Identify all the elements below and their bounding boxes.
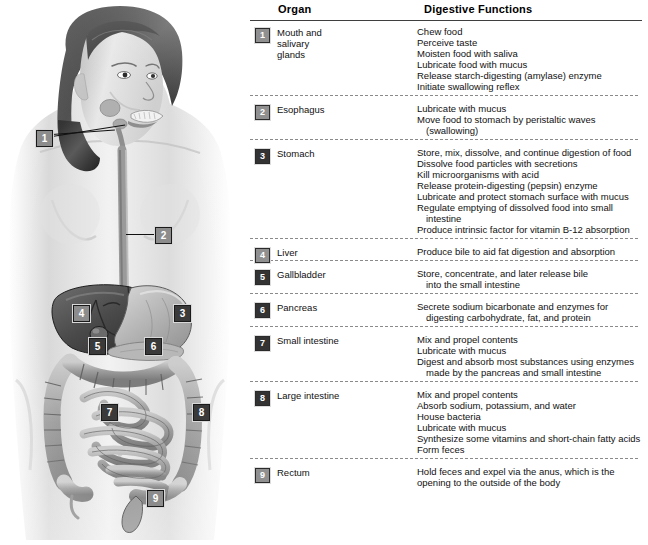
function-line: Secrete sodium bicarbonate and enzymes f… [417,301,642,312]
function-line: Mix and propel contents [417,389,642,400]
row-separator [250,238,638,239]
function-line: House bacteria [417,411,642,422]
row-separator [250,95,638,96]
function-line: opening to the outside of the body [417,477,642,488]
function-line: Form feces [417,444,642,455]
row-badge-1: 1 [255,28,270,43]
organ-name: Pancreas [277,302,407,313]
anatomy-illustration [0,0,240,545]
row-badge-5: 5 [255,270,270,285]
table-body: 1Mouth andsalivaryglandsChew foodPerceiv… [240,22,648,491]
digestive-functions-table: Organ Digestive Functions 1Mouth andsali… [240,0,648,545]
function-line: Produce bile to aid fat digestion and ab… [417,246,642,257]
function-line: Regulate emptying of dissolved food into… [417,202,642,213]
organ-functions: Mix and propel contentsAbsorb sodium, po… [417,389,642,455]
row-separator [250,293,638,294]
organ-name: Stomach [277,148,407,159]
function-line: Dissolve food particles with secretions [417,158,642,169]
organ-functions: Secrete sodium bicarbonate and enzymes f… [417,301,642,323]
figure-callout-7: 7 [101,404,118,421]
row-badge-7: 7 [255,336,270,351]
row-badge-3: 3 [255,149,270,164]
function-line: Release starch-digesting (amylase) enzym… [417,70,642,81]
function-line: Moisten food with saliva [417,48,642,59]
organ-functions: Mix and propel contentsLubricate with mu… [417,334,642,378]
row-badge-9: 9 [255,468,270,483]
table-row: 2EsophagusLubricate with mucusMove food … [240,99,648,143]
row-badge-8: 8 [255,391,270,406]
organ-name: Gallbladder [277,269,407,280]
function-line: Digest and absorb most substances using … [417,356,642,367]
organ-functions: Produce bile to aid fat digestion and ab… [417,246,642,257]
row-separator [250,458,638,459]
organ-name: Mouth andsalivaryglands [277,27,407,60]
function-line: Lubricate with mucus [417,345,642,356]
column-header-functions: Digestive Functions [424,3,532,15]
figure-callout-6: 6 [145,338,162,355]
table-row: 9RectumHold feces and expel via the anus… [240,462,648,491]
function-line: Mix and propel contents [417,334,642,345]
organ-functions: Store, mix, dissolve, and continue diges… [417,147,642,235]
function-line: digesting carbohydrate, fat, and protein [417,312,642,323]
function-line: Lubricate with mucus [417,422,642,433]
figure-callout-4: 4 [73,305,90,322]
function-line: Lubricate food with mucus [417,59,642,70]
table-row: 8Large intestineMix and propel contentsA… [240,385,648,462]
table-row: 7Small intestineMix and propel contentsL… [240,330,648,385]
organ-name: Liver [277,247,407,258]
organ-name: Rectum [277,467,407,478]
organ-functions: Hold feces and expel via the anus, which… [417,466,642,488]
table-row: 3StomachStore, mix, dissolve, and contin… [240,143,648,242]
leader-line-2 [126,234,154,235]
function-line: Hold feces and expel via the anus, which… [417,466,642,477]
table-row: 6PancreasSecrete sodium bicarbonate and … [240,297,648,330]
row-separator [250,326,638,327]
function-line: Perceive taste [417,37,642,48]
function-line: Absorb sodium, potassium, and water [417,400,642,411]
figure-callout-5: 5 [89,338,106,355]
function-line: (swallowing) [417,125,642,136]
function-line: Lubricate and protect stomach surface wi… [417,191,642,202]
function-line: made by the pancreas and small intestine [417,367,642,378]
figure-callout-3: 3 [174,305,191,322]
anatomy-svg [0,0,240,545]
row-badge-4: 4 [255,248,270,263]
table-row: 4LiverProduce bile to aid fat digestion … [240,242,648,264]
function-line: Kill microorganisms with acid [417,169,642,180]
function-line: Chew food [417,26,642,37]
function-line: Move food to stomach by peristaltic wave… [417,114,642,125]
function-line: Lubricate with mucus [417,103,642,114]
function-line: Release protein-digesting (pepsin) enzym… [417,180,642,191]
table-row: 1Mouth andsalivaryglandsChew foodPerceiv… [240,22,648,99]
organ-name: Esophagus [277,104,407,115]
row-separator [250,260,638,261]
function-line: Store, mix, dissolve, and continue diges… [417,147,642,158]
column-header-organ: Organ [278,3,311,15]
table-row: 5GallbladderStore, concentrate, and late… [240,264,648,297]
function-line: Produce intrinsic factor for vitamin B-1… [417,224,642,235]
organ-name: Large intestine [277,390,407,401]
figure-callout-8: 8 [193,404,210,421]
row-separator [250,381,638,382]
organ-functions: Store, concentrate, and later release bi… [417,268,642,290]
table-header: Organ Digestive Functions [240,0,648,22]
header-rule [250,20,642,21]
figure-callout-1: 1 [36,130,53,147]
organ-functions: Lubricate with mucusMove food to stomach… [417,103,642,136]
organ-name: Small intestine [277,335,407,346]
figure-callout-2: 2 [155,227,172,244]
row-separator [250,139,638,140]
row-badge-2: 2 [255,105,270,120]
function-line: Initiate swallowing reflex [417,81,642,92]
function-line: Store, concentrate, and later release bi… [417,268,642,279]
figure-callout-9: 9 [147,490,164,507]
function-line: Synthesize some vitamins and short-chain… [417,433,642,444]
function-line: intestine [417,213,642,224]
row-badge-6: 6 [255,303,270,318]
organ-functions: Chew foodPerceive tasteMoisten food with… [417,26,642,92]
function-line: into the small intestine [417,279,642,290]
